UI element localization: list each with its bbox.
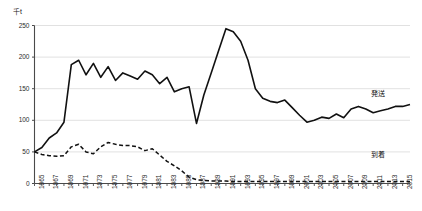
- series-label-2: 到着: [371, 149, 385, 159]
- y-gridlines: [35, 26, 411, 152]
- x-tick-label: 2011: [376, 175, 383, 189]
- chart-container: 千t 0501001502002501965196719691971197319…: [0, 0, 422, 211]
- x-tick-label: 1983: [170, 174, 177, 188]
- x-tick-label: 2005: [332, 174, 339, 188]
- chart-canvas: [0, 0, 422, 211]
- axes: [35, 26, 411, 184]
- y-tick-label: 250: [10, 22, 30, 29]
- y-tick-label: 100: [10, 116, 30, 123]
- x-tick-label: 1989: [214, 174, 221, 188]
- x-tick-label: 2015: [406, 174, 413, 188]
- x-tick-label: 1993: [244, 174, 251, 188]
- series-label-1: 発送: [371, 88, 385, 98]
- x-tick-label: 1985: [185, 174, 192, 188]
- x-tick-label: 2003: [317, 174, 324, 188]
- y-tick-label: 0: [10, 180, 30, 187]
- y-tick-label: 50: [10, 148, 30, 155]
- x-tick-label: 1967: [52, 174, 59, 188]
- x-tick-label: 1973: [96, 174, 103, 188]
- x-tick-label: 1975: [111, 174, 118, 188]
- x-tick-label: 1965: [38, 174, 45, 188]
- x-tick-label: 1977: [126, 174, 133, 188]
- x-tick-label: 1971: [82, 174, 89, 188]
- y-tick-label: 150: [10, 85, 30, 92]
- x-tick-label: 1995: [258, 174, 265, 188]
- x-tick-label: 1981: [155, 174, 162, 188]
- x-tick-label: 2001: [303, 174, 310, 188]
- x-tick-label: 2013: [391, 174, 398, 188]
- x-tick-label: 1979: [141, 174, 148, 188]
- x-tick-label: 1991: [229, 174, 236, 188]
- x-tick-label: 1999: [288, 174, 295, 188]
- x-tick-label: 1987: [199, 174, 206, 188]
- y-tick-label: 200: [10, 53, 30, 60]
- x-tick-label: 1997: [273, 174, 280, 188]
- x-tick-label: 1969: [67, 174, 74, 188]
- x-tick-label: 2007: [347, 174, 354, 188]
- series-line-1: [35, 29, 411, 152]
- x-tick-label: 2009: [361, 174, 368, 188]
